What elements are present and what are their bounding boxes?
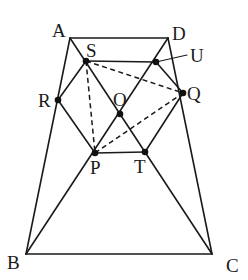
point-P [92, 150, 99, 157]
segment-TP [95, 152, 145, 153]
point-Q [180, 90, 187, 97]
label-P: P [90, 157, 101, 178]
point-O [117, 111, 124, 118]
geometry-diagram: A D S U R Q O P T B C [0, 0, 248, 280]
label-Q: Q [187, 83, 201, 104]
point-U [153, 59, 160, 66]
label-O: O [113, 89, 127, 110]
label-S: S [86, 40, 97, 61]
label-B: B [7, 252, 20, 273]
point-labels: A D S U R Q O P T B C [7, 20, 239, 276]
segment-PR [58, 100, 95, 153]
diagonals [26, 38, 212, 254]
label-A: A [52, 20, 66, 41]
label-R: R [38, 90, 51, 111]
trapezoid-abcd [26, 38, 212, 254]
label-D: D [172, 23, 186, 44]
segment-SU [86, 61, 156, 62]
label-U: U [190, 45, 204, 66]
point-T [142, 149, 149, 156]
segment-RS [58, 61, 86, 100]
label-C: C [226, 255, 239, 276]
segment-QT [145, 93, 183, 152]
label-T: T [134, 156, 146, 177]
point-R [55, 97, 62, 104]
